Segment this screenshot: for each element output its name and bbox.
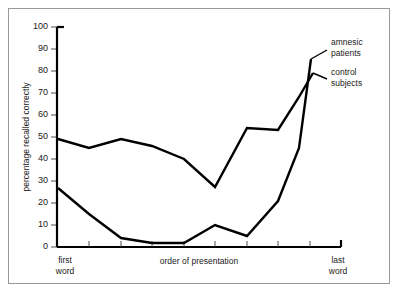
y-tick-80: 80 <box>38 65 57 75</box>
series-label-amnesic-patients-line2: patients <box>331 48 361 58</box>
y-tick-label-50: 50 <box>38 131 48 141</box>
y-tick-label-90: 90 <box>38 43 48 53</box>
leader-line-control-subjects <box>313 73 327 79</box>
y-tick-0: 0 <box>43 241 57 251</box>
y-tick-50: 50 <box>38 131 57 141</box>
series-label-amnesic-patients-line1: amnesic <box>331 37 363 47</box>
y-tick-20: 20 <box>38 197 57 207</box>
y-tick-label-20: 20 <box>38 197 48 207</box>
y-tick-100: 100 <box>33 21 57 31</box>
figure-frame: 0 10 20 30 40 <box>8 8 390 284</box>
series-line-amnesic-patients <box>58 59 311 243</box>
y-tick-40: 40 <box>38 153 57 163</box>
x-axis-title: order of presentation <box>160 256 239 266</box>
series-label-control-subjects-line1: control <box>331 67 357 77</box>
y-tick-10: 10 <box>38 219 57 229</box>
line-chart: 0 10 20 30 40 <box>9 9 389 283</box>
series-line-control-subjects <box>58 73 313 187</box>
y-tick-label-70: 70 <box>38 87 48 97</box>
y-tick-label-40: 40 <box>38 153 48 163</box>
y-axis-ticks: 0 10 20 30 40 <box>33 21 57 251</box>
y-tick-label-60: 60 <box>38 109 48 119</box>
y-tick-label-100: 100 <box>33 21 48 31</box>
x-start-label-line2: word <box>55 266 75 276</box>
x-end-label-line2: word <box>328 266 348 276</box>
y-axis-title: percentage recalled correctly <box>21 82 31 192</box>
x-end-label-line1: last <box>331 255 345 265</box>
y-tick-90: 90 <box>38 43 57 53</box>
y-tick-30: 30 <box>38 175 57 185</box>
x-start-label-line1: first <box>58 255 72 265</box>
series-label-control-subjects-line2: subjects <box>331 78 362 88</box>
y-tick-label-80: 80 <box>38 65 48 75</box>
y-tick-label-10: 10 <box>38 219 48 229</box>
y-tick-60: 60 <box>38 109 57 119</box>
y-tick-label-30: 30 <box>38 175 48 185</box>
figure-container: 0 10 20 30 40 <box>0 0 398 292</box>
y-tick-label-0: 0 <box>43 241 48 251</box>
leader-line-amnesic-patients <box>311 50 327 59</box>
y-tick-70: 70 <box>38 87 57 97</box>
